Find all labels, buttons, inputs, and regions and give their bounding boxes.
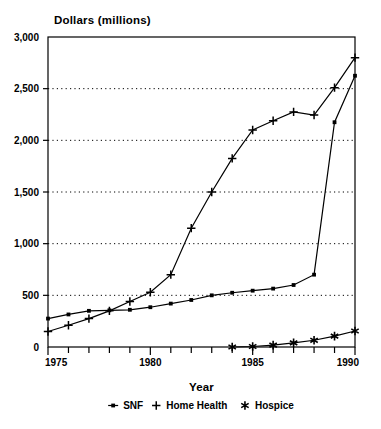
- plus-marker-icon: [289, 108, 297, 116]
- plus-marker-icon: [248, 126, 256, 134]
- plus-marker-icon: [351, 53, 359, 61]
- square-marker-icon: [111, 404, 115, 408]
- plus-marker-icon: [105, 307, 113, 315]
- square-marker-icon: [169, 302, 173, 306]
- plus-marker-icon: [208, 188, 216, 196]
- legend-label: Home Health: [166, 400, 227, 411]
- square-marker-icon: [128, 308, 132, 312]
- square-marker-icon: [353, 74, 357, 78]
- legend-label: Hospice: [255, 400, 294, 411]
- square-marker-icon: [230, 291, 234, 295]
- plot-frame: [48, 37, 355, 347]
- asterisk-marker-icon: [351, 327, 358, 336]
- y-axis-tick-label: 500: [22, 290, 39, 301]
- chart-legend: SNFHome HealthHospice: [108, 400, 294, 411]
- square-marker-icon: [148, 305, 152, 309]
- square-marker-icon: [312, 273, 316, 277]
- legend-label: SNF: [123, 400, 143, 411]
- plus-marker-icon: [269, 117, 277, 125]
- square-marker-icon: [46, 317, 50, 321]
- x-axis-tick-label: 1975: [45, 357, 68, 368]
- y-axis-tick-label: 1,000: [14, 238, 39, 249]
- square-marker-icon: [189, 298, 193, 302]
- y-axis-tick-label: 3,000: [14, 32, 39, 43]
- y-axis-tick-label: 1,500: [14, 187, 39, 198]
- plus-marker-icon: [64, 321, 72, 329]
- legend-item[interactable]: Hospice: [241, 400, 294, 411]
- square-marker-icon: [87, 309, 91, 313]
- chart-container: 05001,0001,5002,0002,5003,00019751980198…: [0, 0, 381, 429]
- legend-item[interactable]: SNF: [108, 400, 143, 411]
- plus-marker-icon: [187, 224, 195, 232]
- square-marker-icon: [67, 313, 71, 317]
- square-marker-icon: [251, 289, 255, 293]
- y-axis-tick-label: 0: [33, 342, 39, 353]
- legend-item[interactable]: Home Health: [152, 400, 227, 411]
- data-series-snf: [46, 74, 357, 321]
- x-axis-title: Year: [189, 381, 214, 393]
- plus-marker-icon: [44, 327, 52, 335]
- x-axis-tick-label: 1985: [242, 357, 265, 368]
- y-axis-tick-label: 2,000: [14, 135, 39, 146]
- x-axis-tick-label: 1990: [337, 357, 360, 368]
- square-marker-icon: [210, 293, 214, 297]
- data-series-home-health: [44, 53, 359, 335]
- x-axis-tick-label: 1980: [139, 357, 162, 368]
- square-marker-icon: [271, 287, 275, 291]
- square-marker-icon: [292, 283, 296, 287]
- square-marker-icon: [333, 120, 337, 124]
- plus-marker-icon: [126, 297, 134, 305]
- plus-marker-icon: [152, 401, 160, 409]
- series-line: [48, 58, 355, 332]
- line-chart: 05001,0001,5002,0002,5003,00019751980198…: [0, 0, 381, 429]
- series-line: [48, 76, 355, 319]
- y-axis-tick-label: 2,500: [14, 83, 39, 94]
- asterisk-marker-icon: [241, 401, 248, 410]
- plus-marker-icon: [228, 154, 236, 162]
- plus-marker-icon: [85, 314, 93, 322]
- chart-title: Dollars (millions): [54, 14, 151, 26]
